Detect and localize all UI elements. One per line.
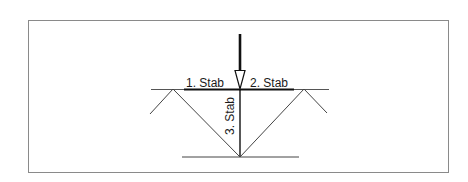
right-tail-line: [304, 89, 327, 113]
figure-frame: [29, 21, 449, 173]
truss-diagram: [0, 0, 468, 182]
right-diagonal-line: [240, 89, 304, 157]
bar-1-label: 1. Stab: [186, 77, 224, 89]
left-tail-line: [150, 89, 173, 114]
bar-3-label: 3. Stab: [224, 97, 236, 135]
bar-2-label: 2. Stab: [250, 77, 288, 89]
load-arrow-head-icon: [235, 71, 245, 90]
